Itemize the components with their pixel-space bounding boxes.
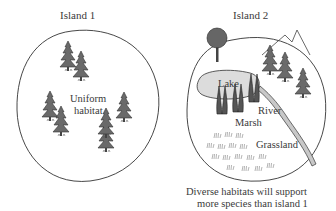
marsh-label: Marsh: [235, 117, 262, 129]
islands-diagram: [0, 0, 336, 211]
island-2-title: Island 2: [233, 9, 268, 21]
lake-label: Lake: [218, 78, 239, 90]
grassland-label: Grassland: [256, 139, 298, 151]
island-1-title: Island 1: [60, 9, 95, 21]
caption-line2: more species than island 1: [197, 197, 308, 210]
uniform-habitat-label-line2: habitat: [74, 105, 103, 117]
uniform-habitat-label-line1: Uniform: [70, 93, 106, 105]
island-2-outline: [187, 37, 326, 181]
river-label: River: [258, 105, 281, 117]
